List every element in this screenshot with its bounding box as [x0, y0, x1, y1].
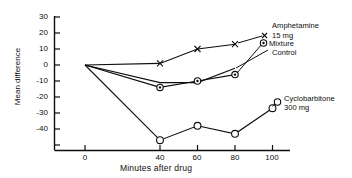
series-line-control: [85, 65, 235, 83]
leader-line-amphetamine: [238, 36, 262, 43]
y-axis-title: Mean difference: [13, 42, 22, 112]
x-tick-marks: [85, 145, 273, 151]
series-markers-mixture: [157, 71, 238, 90]
x-tick-label: 40: [149, 153, 171, 162]
amphetamine-label: Amphetamine: [272, 21, 319, 30]
x-tick-label: 80: [224, 153, 246, 162]
series-markers-cyclobarbitone: [157, 105, 276, 144]
series-line-amphetamine: [85, 44, 235, 65]
legend-marker-mixture: [260, 40, 266, 46]
x-tick-label: 100: [261, 153, 283, 162]
x-tick-label: 0: [74, 153, 96, 162]
y-tick-label: -30: [26, 108, 48, 117]
y-tick-marks: [55, 17, 61, 145]
chart-figure: 30 20 10 0 -10 -20 -30 -40 0 40 60 80 10…: [0, 0, 352, 178]
control-label: Control: [272, 48, 296, 57]
mixture-label: Mixture: [269, 39, 294, 48]
y-tick-label: 10: [26, 44, 48, 53]
y-tick-label: -10: [26, 76, 48, 85]
legend-marker-amphetamine: [262, 33, 267, 38]
x-axis-title: Minutes after drug: [120, 163, 192, 173]
leader-line-mixture: [237, 44, 262, 73]
y-tick-label: -20: [26, 92, 48, 101]
series-line-cyclobarbitone: [85, 65, 273, 140]
y-tick-label: 30: [26, 12, 48, 21]
x-tick-label: 60: [186, 153, 208, 162]
legend-marker-cyclobarbitone: [274, 99, 280, 105]
leader-line-control: [236, 50, 268, 68]
cyclobarbitone-label: Cyclobarbitone: [284, 94, 335, 103]
y-tick-label: 20: [26, 28, 48, 37]
y-tick-label: -40: [26, 124, 48, 133]
y-tick-label: 0: [26, 60, 48, 69]
cyclobarbitone-dose-label: 300 mg: [284, 103, 309, 112]
